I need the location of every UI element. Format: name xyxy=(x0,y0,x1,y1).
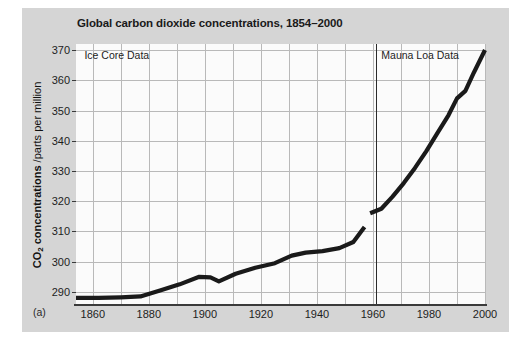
plot-area: Ice Core DataMauna Loa Data xyxy=(76,44,485,304)
x-tick-label-1940: 1940 xyxy=(305,308,329,320)
chart-title: Global carbon dioxide concentrations, 18… xyxy=(77,17,343,29)
y-tick-label-360: 360 xyxy=(42,74,70,86)
data-lines xyxy=(76,44,485,304)
figure-container: Global carbon dioxide concentrations, 18… xyxy=(0,0,531,347)
y-tick-label-330: 330 xyxy=(42,165,70,177)
y-tick-label-340: 340 xyxy=(42,135,70,147)
y-tick-label-290: 290 xyxy=(42,286,70,298)
x-axis-line xyxy=(74,304,487,306)
x-tick-label-1960: 1960 xyxy=(361,308,385,320)
data-line-mauna-loa xyxy=(370,50,485,213)
x-tick-label-1860: 1860 xyxy=(81,308,105,320)
x-tick-label-1900: 1900 xyxy=(193,308,217,320)
y-tick-label-370: 370 xyxy=(42,44,70,56)
y-tick-label-320: 320 xyxy=(42,195,70,207)
x-tick-label-2000: 2000 xyxy=(473,308,497,320)
data-line-ice-core xyxy=(76,227,365,298)
y-axis-title-subscript: 2 xyxy=(36,247,45,251)
y-tick-label-300: 300 xyxy=(42,256,70,268)
x-tick-label-1920: 1920 xyxy=(249,308,273,320)
y-tick-label-350: 350 xyxy=(42,105,70,117)
gridline-x-2000 xyxy=(485,44,486,304)
panel-letter: (a) xyxy=(33,306,46,318)
x-tick-label-1880: 1880 xyxy=(137,308,161,320)
y-axis-title-unit: /parts per million xyxy=(31,82,43,166)
x-tick-label-1980: 1980 xyxy=(417,308,441,320)
y-tick-label-310: 310 xyxy=(42,225,70,237)
